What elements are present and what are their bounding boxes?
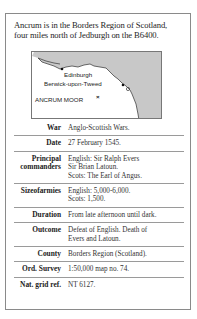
fact-value: 1:50,000 map no. 74. [68, 265, 129, 273]
fact-value: Defeat of English. Death ofEvers and Lat… [68, 226, 147, 243]
berwick-dot [122, 84, 125, 87]
fact-row-date: Date 27 February 1545. [14, 136, 184, 151]
fact-row-outcome: Outcome Defeat of English. Death ofEvers… [14, 223, 184, 247]
fact-label: Ord. Survey [14, 265, 61, 273]
battle-info-box: Ancrum is in the Borders Region of Scotl… [5, 13, 191, 310]
fact-value: English: Sir Ralph EversSir Brian Latoun… [68, 155, 142, 180]
fact-label: Nat. grid ref. [14, 281, 61, 289]
fact-value: NT 6127. [68, 281, 95, 289]
fact-label: Sizeofarmies [14, 187, 61, 204]
intro-text: Ancrum is in the Borders Region of Scotl… [14, 20, 190, 40]
fact-row-ord-survey: Ord. Survey 1:50,000 map no. 74. [14, 262, 184, 277]
fact-row-grid-ref: Nat. grid ref. NT 6127. [14, 278, 184, 292]
fact-row-size-of-armies: Sizeofarmies English: 5,000-6,000.Scots:… [14, 184, 184, 208]
intro-line-2: four miles north of Jedburgh on the B640… [14, 30, 190, 40]
fact-row-war: War Anglo-Scottish Wars. [14, 121, 184, 136]
facts-table: War Anglo-Scottish Wars. Date 27 Februar… [14, 121, 184, 292]
fact-value: English: 5,000-6,000.Scots: 1,500. [68, 187, 130, 204]
label-ancrum-moor: ANCRUM MOOR [35, 96, 83, 103]
intro-line-1: Ancrum is in the Borders Region of Scotl… [14, 20, 190, 30]
fact-label: Outcome [14, 226, 61, 243]
fact-label: Duration [14, 211, 61, 219]
label-edinburgh: Edinburgh [64, 71, 92, 78]
fact-label: Principalcommanders [14, 155, 61, 180]
label-berwick: Berwick-upon-Tweed [44, 80, 102, 87]
fact-value: 27 February 1545. [68, 139, 121, 147]
fact-label: War [14, 124, 61, 132]
fact-label: Date [14, 139, 61, 147]
fact-value: Anglo-Scottish Wars. [68, 124, 130, 132]
fact-row-county: County Borders Region (Scotland). [14, 247, 184, 262]
battle-site-marker-icon: × [96, 93, 100, 100]
fact-value: From late afternoon until dark. [68, 211, 156, 219]
location-map: Edinburgh Berwick-upon-Tweed ANCRUM MOOR… [31, 51, 162, 119]
edinburgh-dot [61, 68, 64, 71]
fact-label: County [14, 250, 61, 258]
fact-row-commanders: Principalcommanders English: Sir Ralph E… [14, 152, 184, 184]
fact-value: Borders Region (Scotland). [68, 250, 147, 258]
fact-row-duration: Duration From late afternoon until dark. [14, 208, 184, 223]
